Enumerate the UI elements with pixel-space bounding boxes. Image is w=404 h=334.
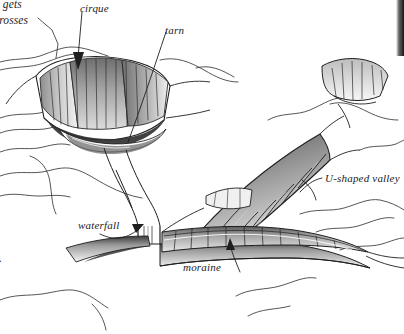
figure-illustration — [0, 0, 404, 334]
body-text-fragment-2: crosses — [0, 14, 28, 27]
cirque-leader — [78, 12, 82, 58]
left-spur — [206, 188, 252, 209]
hanging-corrie-fan — [322, 59, 388, 128]
label-tarn: tarn — [165, 24, 184, 36]
body-text-fragment-1: n gets — [0, 0, 22, 11]
label-u-shaped-valley: U-shaped valley — [325, 172, 400, 184]
glacial-landforms-figure: cirque tarn U-shaped valley waterfall mo… — [0, 0, 404, 334]
cirque-hollow — [6, 57, 210, 154]
hanging-valley-lip — [104, 148, 160, 226]
clipped-figure-edge — [393, 0, 404, 56]
label-moraine: moraine — [183, 261, 221, 273]
body-text-fragment-4: . — [0, 252, 2, 265]
label-waterfall: waterfall — [78, 219, 120, 231]
label-cirque: cirque — [80, 2, 109, 14]
